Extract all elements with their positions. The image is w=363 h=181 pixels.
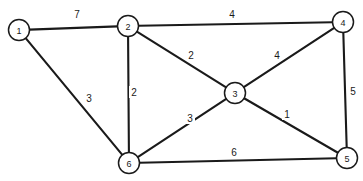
graph-edge-3-6 [138,99,226,157]
edge-weight-label: 6 [231,147,237,158]
edge-weight-label: 2 [188,50,194,61]
graph-node-label: 4 [340,18,345,28]
edge-weight-label: 2 [131,87,137,98]
edge-weight-3-5: 1 [282,108,292,120]
graph-edge-3-4 [244,28,334,87]
graph-edge-2-3 [137,32,226,88]
edge-weight-2-4: 4 [227,8,237,20]
graph-edge-2-4 [139,22,333,26]
graph-edge-3-5 [244,98,338,152]
edge-weight-1-2: 7 [72,8,82,20]
edge-weight-1-6: 3 [84,92,94,104]
graph-edge-5-6 [140,158,337,163]
graph-node-4[interactable]: 4 [333,12,354,33]
graph-node-1[interactable]: 1 [9,20,30,41]
edge-weight-3-6: 3 [185,112,195,124]
graph-node-3[interactable]: 3 [225,83,246,104]
edge-weight-5-6: 6 [229,146,239,158]
graph-node-6[interactable]: 6 [119,153,140,174]
edge-weight-label: 4 [274,50,280,61]
edge-weight-3-4: 4 [272,49,282,61]
node-layer: 123456 [9,12,358,174]
graph-edge-1-2 [29,26,117,29]
edge-weight-label: 7 [74,9,80,20]
graph-node-2[interactable]: 2 [118,16,139,37]
edge-weight-label: 5 [350,86,356,97]
graph-edge-4-5 [343,33,346,148]
graph-node-label: 5 [344,154,349,164]
graph-node-label: 6 [126,159,131,169]
graph-canvas: 123456 7424523316 [0,0,363,181]
edge-weight-4-5: 5 [348,85,358,97]
edge-layer [26,22,347,163]
graph-edge-2-6 [128,37,129,153]
graph-node-label: 3 [232,89,237,99]
graph-diagram: 123456 7424523316 [0,0,363,181]
edge-weight-2-6: 2 [129,86,139,98]
graph-edge-1-6 [26,38,123,155]
edge-weight-layer: 7424523316 [72,8,358,158]
edge-weight-label: 1 [284,109,290,120]
graph-node-label: 2 [125,22,130,32]
edge-weight-label: 3 [187,113,193,124]
edge-weight-label: 3 [86,93,92,104]
graph-node-5[interactable]: 5 [337,148,358,169]
edge-weight-2-3: 2 [186,49,196,61]
graph-node-label: 1 [16,26,21,36]
edge-weight-label: 4 [229,9,235,20]
